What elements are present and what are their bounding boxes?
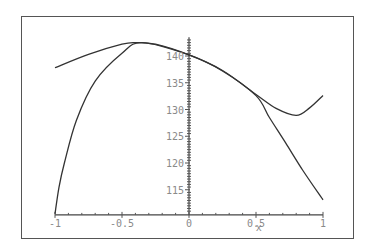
- y-tick-label: 125: [166, 131, 184, 142]
- axes: [55, 37, 323, 218]
- y-tick-label: 120: [166, 158, 184, 169]
- x-axis-label: x: [256, 222, 262, 233]
- x-tick-label: 0: [186, 218, 192, 229]
- y-tick-label: 130: [166, 105, 184, 116]
- y-tick-label: 140: [166, 51, 184, 62]
- x-tick-label: 1: [320, 218, 326, 229]
- x-tick-label: -0.5: [110, 218, 134, 229]
- x-tick-label: -1: [49, 218, 61, 229]
- line-chart: -1-0.500.51115120125130135140 x: [0, 0, 373, 250]
- y-tick-label: 135: [166, 78, 184, 89]
- y-tick-label: 115: [166, 185, 184, 196]
